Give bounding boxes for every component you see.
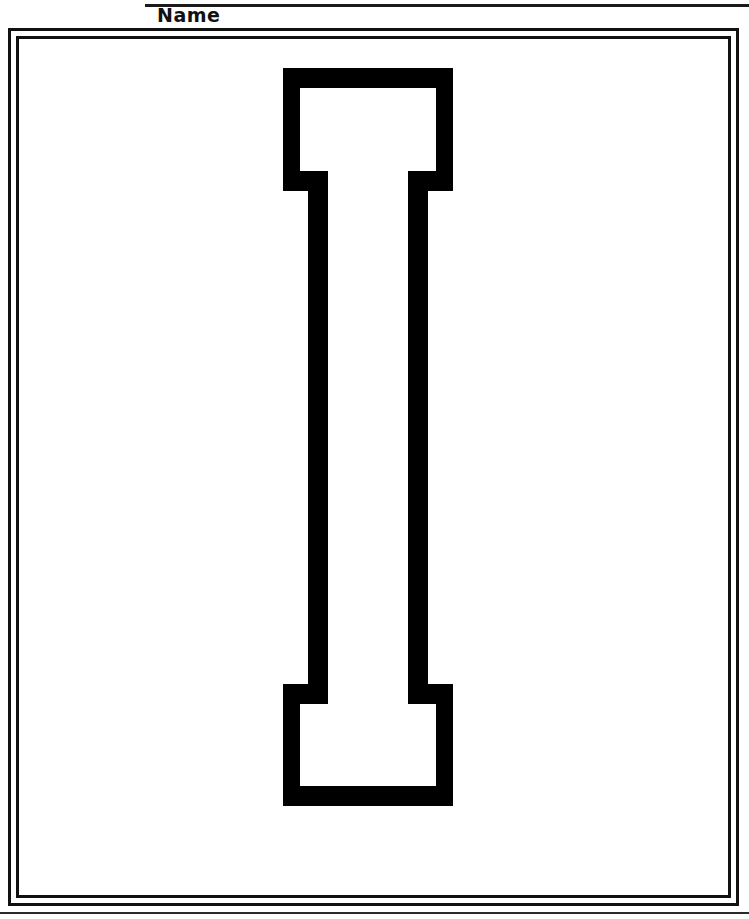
footer-rule — [0, 912, 749, 914]
worksheet-page: Name — [0, 0, 749, 919]
letter-i-outline-icon — [16, 36, 731, 898]
letter-stage — [16, 36, 731, 898]
name-rule — [145, 4, 749, 7]
name-label: Name — [157, 5, 220, 25]
name-header: Name — [145, 0, 749, 26]
